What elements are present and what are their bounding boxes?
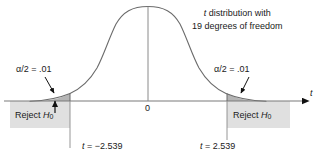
alpha-arrow-left [45, 77, 54, 93]
chart-title-line-2: 19 degrees of freedom [192, 21, 283, 32]
axis-tick-label-zero: 0 [145, 103, 150, 114]
reject-left-text: Reject [15, 110, 43, 120]
alpha-label-right: α/2 = .01 [214, 64, 249, 75]
reject-label-left: Reject H0 [15, 110, 53, 122]
critical-value-label-left: t = −2.539 [82, 141, 123, 152]
critical-value-label-right: t = 2.539 [200, 141, 235, 152]
title-line1-rest: distribution with [206, 8, 271, 18]
alpha-arrow-right [241, 77, 249, 93]
alpha-label-left: α/2 = .01 [16, 64, 51, 75]
critical-left-value: = −2.539 [85, 141, 123, 151]
reject-right-text: Reject [233, 110, 261, 120]
critical-right-value: = 2.539 [203, 141, 236, 151]
chart-title-line-1: t distribution with [192, 8, 283, 19]
axis-label-t: t [310, 88, 313, 99]
figure-canvas: t distribution with 19 degrees of freedo… [0, 0, 320, 165]
reject-left-subscript: 0 [50, 113, 54, 120]
chart-title: t distribution with 19 degrees of freedo… [192, 8, 283, 33]
reject-label-right: Reject H0 [233, 110, 271, 122]
reject-right-subscript: 0 [268, 113, 272, 120]
